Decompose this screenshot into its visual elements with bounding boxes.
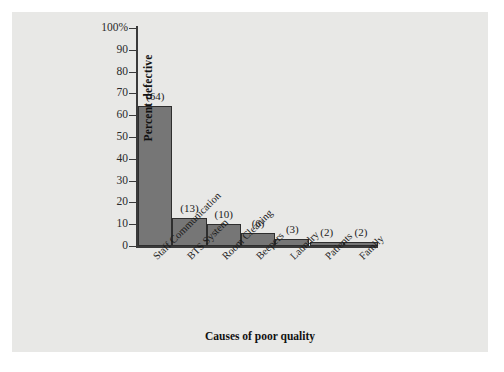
y-axis-tick [129, 181, 136, 182]
y-axis-tick [129, 159, 136, 160]
y-axis-tick [129, 224, 136, 225]
y-axis-tick-label: 60 [96, 109, 128, 121]
y-axis-tick-label: 70 [96, 87, 128, 99]
y-axis-tick [129, 202, 136, 203]
y-axis-tick-label: 0 [96, 240, 128, 252]
bar-value-label: (64) [128, 91, 182, 102]
y-axis-tick-label: 40 [96, 153, 128, 165]
y-axis-tick [129, 28, 136, 29]
y-axis-tick [129, 137, 136, 138]
x-axis-title: Causes of poor quality [140, 330, 380, 342]
y-axis-tick [129, 246, 136, 247]
y-axis-tick-label: 50 [96, 131, 128, 143]
pareto-chart-figure: 100%9080706050403020100 (64)(13)(10)(6)(… [0, 0, 504, 372]
y-axis-tick-label: 100% [82, 22, 128, 34]
y-axis-tick-label: 30 [96, 175, 128, 187]
y-axis-tick [129, 115, 136, 116]
y-axis-tick-label: 90 [96, 44, 128, 56]
plot-area: 100%9080706050403020100 (64)(13)(10)(6)(… [0, 0, 504, 372]
y-axis-tick-label: 10 [96, 218, 128, 230]
y-axis-title: Percent defective [142, 38, 154, 158]
y-axis-tick-label: 20 [96, 196, 128, 208]
y-axis-tick [129, 50, 136, 51]
y-axis-tick-label: 80 [96, 66, 128, 78]
y-axis-tick [129, 72, 136, 73]
